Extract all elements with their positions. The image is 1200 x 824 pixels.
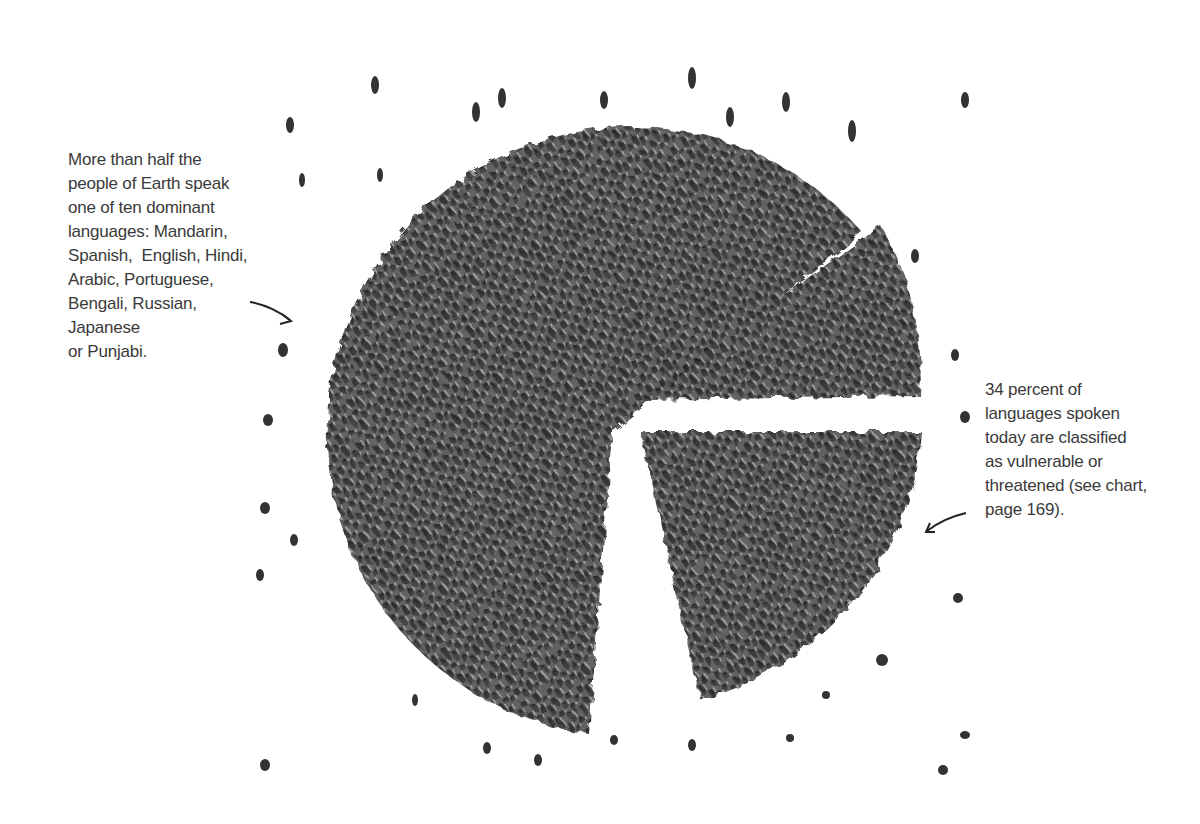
annotation-line: page 169). (985, 498, 1195, 522)
annotation-line: 34 percent of (985, 378, 1195, 402)
annotation-dominant-languages: More than half the people of Earth speak… (68, 148, 288, 364)
annotation-line: Bengali, Russian, (68, 292, 288, 316)
annotation-threatened-languages: 34 percent of languages spoken today are… (985, 378, 1195, 522)
annotation-line: More than half the (68, 148, 288, 172)
annotation-line: Japanese (68, 316, 288, 340)
annotation-line: Arabic, Portuguese, (68, 268, 288, 292)
annotation-line: today are classified (985, 426, 1195, 450)
annotation-line: Spanish, English, Hindi, (68, 244, 288, 268)
annotation-line: languages: Mandarin, (68, 220, 288, 244)
annotation-line: threatened (see chart, (985, 474, 1195, 498)
annotation-line: one of ten dominant (68, 196, 288, 220)
annotation-line: or Punjabi. (68, 340, 288, 364)
annotation-line: languages spoken (985, 402, 1195, 426)
annotation-line: as vulnerable or (985, 450, 1195, 474)
annotation-line: people of Earth speak (68, 172, 288, 196)
arrow-icon-right (927, 513, 966, 531)
